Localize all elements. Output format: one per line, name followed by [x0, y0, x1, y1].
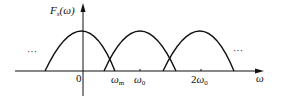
- omega-m-label: ωm: [111, 73, 125, 87]
- omega-0-label: ω0: [134, 73, 146, 87]
- spectrum-lobe-0: [45, 31, 115, 71]
- y-axis-arrow-icon: [81, 3, 86, 12]
- x-axis-label: ω: [256, 72, 264, 84]
- y-axis-label: Fs(ω): [49, 4, 75, 18]
- origin-label: 0: [76, 72, 82, 84]
- sampled-spectrum-diagram: Fs(ω) 0 ωm ω0 2ω0 ω ··· ···: [0, 0, 281, 99]
- two-omega-0-label: 2ω0: [191, 73, 208, 87]
- continuation-left: ···: [27, 46, 37, 57]
- continuation-right: ···: [233, 45, 243, 56]
